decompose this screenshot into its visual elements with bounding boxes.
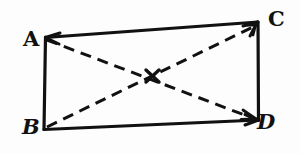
arrowhead-group-dashed xyxy=(241,25,256,120)
vertex-label-a: A xyxy=(23,28,39,49)
edge-AB xyxy=(44,37,46,130)
edge-BD xyxy=(44,120,259,130)
sketch-canvas: A C B D xyxy=(0,0,300,154)
vertex-label-c: C xyxy=(268,8,285,29)
edge-CD xyxy=(258,22,259,121)
vertex-label-d: D xyxy=(257,111,275,132)
quadrilateral-diagram xyxy=(0,0,300,154)
arrowhead-at-D-diagonal xyxy=(241,110,256,120)
edge-AC xyxy=(46,22,259,38)
vertex-label-b: B xyxy=(22,116,40,137)
